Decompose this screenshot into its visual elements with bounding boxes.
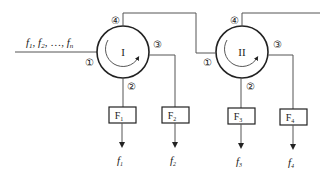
link-II3-F4 <box>268 55 293 109</box>
link-I3-F2 <box>149 55 175 107</box>
filter-F1: F1 f1 <box>109 107 136 167</box>
output-f4: f4 <box>288 156 294 169</box>
port-3-label: ③ <box>153 39 162 50</box>
port-4-label: ④ <box>230 15 239 26</box>
link-I4-to-II1 <box>123 13 216 53</box>
port-1-label: ① <box>85 57 94 68</box>
output-f1: f1 <box>117 154 123 167</box>
input-label: f1, f2, …, fn <box>26 36 74 50</box>
port-2-label: ② <box>127 81 136 92</box>
output-f3: f3 <box>236 155 242 168</box>
filter-F4: F4 f4 <box>280 109 307 169</box>
filter-F2: F2 f2 <box>162 107 189 167</box>
port-1-label: ① <box>203 57 212 68</box>
output-II4 <box>242 13 320 26</box>
port-4-label: ④ <box>111 15 120 26</box>
port-3-label: ③ <box>273 39 282 50</box>
circulator-label: II <box>238 46 246 58</box>
filter-F3: F3 f3 <box>228 108 255 168</box>
output-f2: f2 <box>170 154 176 167</box>
port-2-label: ② <box>246 81 255 92</box>
circulator-filter-diagram: f1, f2, …, fn I ① ② ③ ④ II ① ② ③ ④ F1 f1 <box>0 0 320 177</box>
circulator-label: I <box>121 46 125 58</box>
